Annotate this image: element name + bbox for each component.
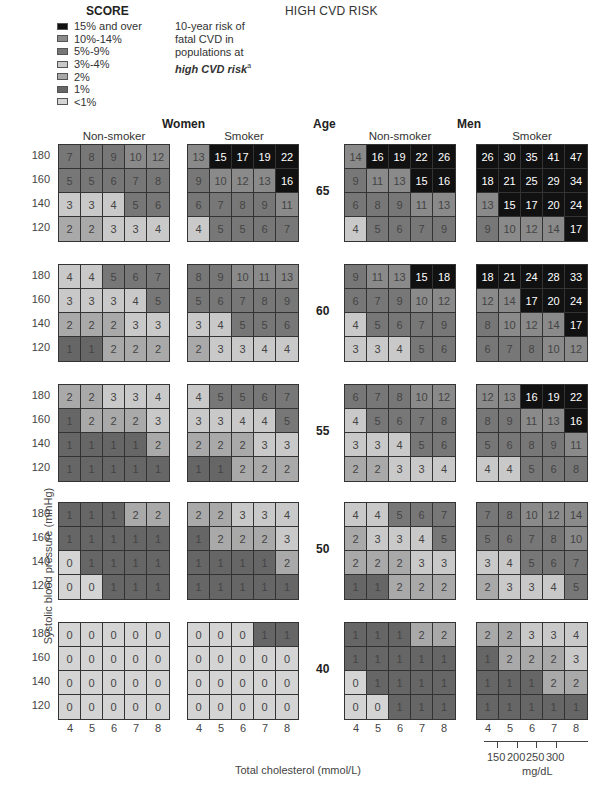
risk-cell: 22 [565,385,587,409]
risk-cell: 2 [125,503,147,527]
risk-cell: 19 [254,145,276,169]
description-line: 10-year risk of [175,20,305,33]
risk-cell: 0 [367,695,389,719]
risk-cell: 2 [276,551,298,575]
age-group-label: 55 [316,424,329,438]
risk-cell: 3 [210,337,232,361]
risk-cell: 12 [543,503,565,527]
risk-cell: 0 [59,551,81,575]
risk-cell: 0 [125,623,147,647]
risk-cell: 30 [499,145,521,169]
risk-cell: 4 [147,217,169,241]
risk-cell: 7 [232,289,254,313]
legend-item: 3%-4% [57,58,142,71]
risk-cell: 1 [477,671,499,695]
risk-cell: 17 [565,313,587,337]
risk-cell: 3 [81,289,103,313]
risk-cell: 2 [411,623,433,647]
risk-cell: 0 [254,695,276,719]
risk-cell: 6 [411,503,433,527]
risk-cell: 1 [188,527,210,551]
risk-cell: 10 [521,503,543,527]
mgdl-tick-mark [556,741,557,748]
men-label: Men [457,117,481,131]
risk-cell: 0 [59,695,81,719]
risk-cell: 3 [103,385,125,409]
risk-cell: 21 [499,265,521,289]
risk-cell: 0 [276,671,298,695]
risk-cell: 7 [411,313,433,337]
risk-cell: 4 [188,217,210,241]
risk-cell: 5 [521,457,543,481]
mgdl-unit-label: mg/dL [522,765,553,777]
risk-cell: 1 [188,457,210,481]
risk-cell: 1 [389,623,411,647]
risk-cell: 6 [499,527,521,551]
risk-cell: 2 [147,433,169,457]
risk-cell: 8 [81,145,103,169]
risk-cell: 3 [210,409,232,433]
risk-cell: 5 [59,169,81,193]
risk-cell: 6 [499,433,521,457]
risk-cell: 7 [499,337,521,361]
risk-cell: 5 [232,217,254,241]
risk-cell: 3 [59,289,81,313]
risk-cell: 6 [433,337,455,361]
risk-cell: 0 [188,647,210,671]
risk-cell: 5 [521,551,543,575]
risk-cell: 4 [276,503,298,527]
risk-cell: 6 [125,265,147,289]
risk-cell: 6 [433,433,455,457]
risk-cell: 1 [499,695,521,719]
risk-cell: 9 [477,217,499,241]
risk-cell: 13 [188,145,210,169]
risk-cell: 1 [521,695,543,719]
risk-cell: 10 [210,169,232,193]
risk-cell: 2 [543,647,565,671]
risk-cell: 13 [499,385,521,409]
risk-cell: 7 [147,265,169,289]
risk-cell: 6 [389,409,411,433]
cholesterol-tick: 5 [81,722,103,734]
mgdl-tick-label: 250 [526,751,544,763]
risk-cell: 0 [59,575,81,599]
risk-cell: 7 [521,527,543,551]
risk-cell: 0 [81,671,103,695]
risk-cell: 3 [81,193,103,217]
risk-cell: 10 [499,217,521,241]
risk-cell: 4 [59,265,81,289]
risk-cell: 1 [147,575,169,599]
risk-cell: 2 [345,457,367,481]
risk-cell: 2 [521,647,543,671]
risk-cell: 3 [103,217,125,241]
risk-cell: 0 [103,623,125,647]
legend-item: 5%-9% [57,45,142,58]
risk-cell: 11 [565,433,587,457]
risk-cell: 12 [477,385,499,409]
risk-cell: 6 [389,217,411,241]
mgdl-tick-mark [517,741,518,748]
risk-cell: 8 [499,503,521,527]
risk-cell: 0 [188,695,210,719]
sbp-tick: 120 [22,341,50,353]
legend-label: 15% and over [74,20,142,32]
risk-cell: 4 [81,265,103,289]
risk-cell: 22 [276,145,298,169]
risk-cell: 3 [147,409,169,433]
risk-cell: 5 [433,527,455,551]
risk-cell: 19 [389,145,411,169]
risk-cell: 13 [389,265,411,289]
risk-cell: 21 [499,169,521,193]
risk-cell: 6 [103,169,125,193]
risk-cell: 1 [59,337,81,361]
risk-cell: 3 [389,527,411,551]
risk-cell: 1 [367,623,389,647]
description-line: fatal CVD in [175,33,305,46]
mgdl-tick-mark [497,741,498,748]
risk-cell: 26 [433,145,455,169]
risk-cell: 14 [543,217,565,241]
risk-cell: 1 [188,551,210,575]
risk-cell: 1 [210,551,232,575]
risk-cell: 2 [254,527,276,551]
risk-cell: 1 [345,647,367,671]
